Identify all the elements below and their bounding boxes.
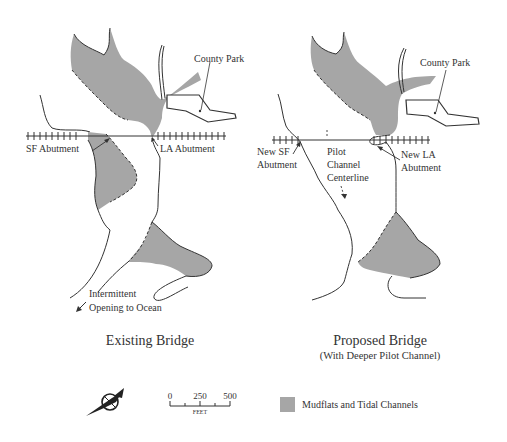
- mudflats-legend-swatch: [280, 397, 295, 412]
- scale-tick-250: 250: [193, 391, 207, 401]
- upper-mudflat: [71, 28, 201, 138]
- map-diagram: County Park SF Abutment LA Abutment Inte…: [0, 0, 507, 442]
- county-park-label: County Park: [194, 53, 244, 64]
- pilot-channel-label-line1: Pilot: [327, 146, 346, 157]
- mudflats-legend-label: Mudflats and Tidal Channels: [302, 399, 418, 410]
- pilot-channel-label-line2: Channel: [327, 159, 361, 170]
- lower-mudflat: [128, 222, 212, 277]
- new-la-abutment-label-line1: New LA: [401, 149, 436, 160]
- la-abutment-label: LA Abutment: [160, 143, 215, 154]
- proposed-bridge-subtitle: (With Deeper Pilot Channel): [280, 350, 480, 361]
- opening-label-line1: Intermittent: [89, 288, 136, 299]
- lower-mudflat-proposed: [358, 212, 440, 278]
- sf-abutment-label: SF Abutment: [26, 143, 79, 154]
- north-arrow-icon: [86, 388, 124, 416]
- proposed-bridge-panel: County Park New SF Abutment Pilot Channe…: [257, 32, 479, 300]
- scale-tick-500: 500: [223, 391, 237, 401]
- new-sf-abutment-label-line1: New SF: [257, 146, 290, 157]
- scale-unit: FEET: [193, 409, 208, 415]
- scale-bar: 0 250 500 FEET: [168, 391, 238, 415]
- pilot-channel-label-line3: Centerline: [327, 172, 369, 183]
- new-sf-abutment-label-line2: Abutment: [257, 159, 297, 170]
- upper-mudflat-proposed: [311, 32, 436, 135]
- county-park-label-proposed: County Park: [420, 57, 470, 68]
- opening-label-line2: Opening to Ocean: [89, 302, 162, 313]
- county-park-outline-proposed: [406, 100, 479, 126]
- proposed-bridge-title: Proposed Bridge: [280, 333, 480, 349]
- existing-bridge-title: Existing Bridge: [50, 333, 250, 349]
- scale-tick-0: 0: [168, 391, 173, 401]
- existing-bridge-panel: County Park SF Abutment LA Abutment Inte…: [26, 28, 244, 313]
- new-la-abutment-label-line2: Abutment: [401, 162, 441, 173]
